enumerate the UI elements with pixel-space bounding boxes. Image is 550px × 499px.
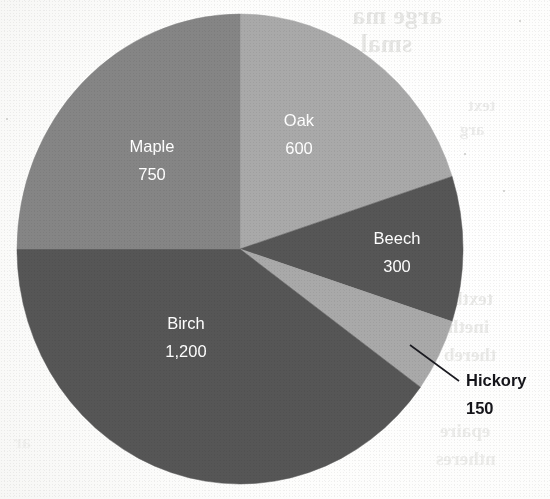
- pie-chart: Oak600Beech300Hickory150Birch1,200Maple7…: [0, 0, 550, 499]
- slice-name-label-oak: Oak: [284, 111, 315, 129]
- slice-value-label-maple: 750: [138, 165, 166, 183]
- slice-name-label-maple: Maple: [130, 137, 175, 155]
- pie-slice-maple[interactable]: [17, 14, 240, 249]
- scan-speck: [519, 20, 521, 22]
- slice-value-label-birch: 1,200: [165, 342, 206, 360]
- slice-value-label-hickory: 150: [466, 399, 494, 417]
- slice-value-label-oak: 600: [285, 139, 313, 157]
- slice-value-label-beech: 300: [383, 257, 411, 275]
- slice-name-label-birch: Birch: [167, 314, 205, 332]
- chart-page: arge ma smal text arg textb ineth thereb…: [0, 0, 550, 499]
- scan-speck: [503, 190, 505, 192]
- scan-speck: [464, 153, 466, 155]
- scan-speck: [6, 118, 8, 120]
- pie-slices-group: [17, 14, 463, 484]
- slice-name-label-beech: Beech: [374, 229, 421, 247]
- slice-name-label-hickory: Hickory: [466, 371, 527, 389]
